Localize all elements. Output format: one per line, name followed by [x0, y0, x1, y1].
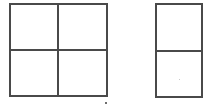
scan-speck-icon: [105, 102, 107, 104]
one-by-two-grid-figure: [155, 3, 203, 98]
horizontal-divider-line: [157, 50, 201, 52]
cell-top: [157, 5, 201, 50]
figure-canvas: [0, 0, 220, 110]
faint-scan-dot-icon: [179, 79, 180, 80]
cell-bottom-right: [59, 51, 106, 95]
horizontal-divider-line: [11, 49, 106, 51]
cell-bottom: [157, 52, 201, 96]
cell-top-right: [59, 5, 106, 49]
cell-bottom-left: [11, 51, 57, 95]
cell-top-left: [11, 5, 57, 49]
two-by-two-grid-figure: [9, 3, 108, 97]
